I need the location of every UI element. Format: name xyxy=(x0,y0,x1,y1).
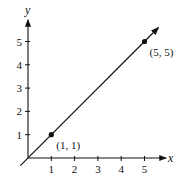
chart: 1234512345 (1, 1)(5, 5) x y xyxy=(0,0,175,181)
x-axis-label: x xyxy=(167,151,174,165)
y-tick-label: 3 xyxy=(17,82,23,94)
x-tick-label: 4 xyxy=(118,163,124,175)
data-point xyxy=(49,132,54,137)
x-tick-label: 2 xyxy=(72,163,78,175)
data-point-label: (1, 1) xyxy=(56,139,80,152)
y-tick-label: 1 xyxy=(17,129,23,141)
x-tick-label: 5 xyxy=(142,163,148,175)
x-tick-label: 1 xyxy=(49,163,55,175)
data-point xyxy=(142,39,147,44)
data-point-label: (5, 5) xyxy=(150,46,174,59)
series-line xyxy=(20,28,158,166)
x-tick-label: 3 xyxy=(95,163,101,175)
y-tick-label: 2 xyxy=(17,105,23,117)
y-tick-label: 5 xyxy=(17,36,23,48)
y-tick-label: 4 xyxy=(17,59,23,71)
series: (1, 1)(5, 5) xyxy=(20,28,173,166)
y-axis-label: y xyxy=(24,3,31,17)
ticks: 1234512345 xyxy=(17,36,148,176)
